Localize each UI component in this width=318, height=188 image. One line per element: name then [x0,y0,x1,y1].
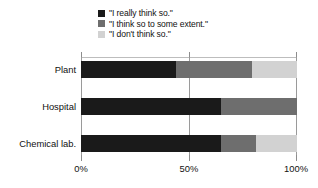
x-tick-label-50: 50% [180,163,199,174]
legend-label: "I really think so." [109,9,173,18]
bar-segment-dont-think-so [256,135,297,152]
bar-segment-think-so-some-extent [221,98,297,115]
category-label-chemical-lab: Chemical lab. [0,135,76,152]
legend-label: "I don't think so." [109,30,171,39]
bar-segment-really-think-so [81,61,176,78]
bar-segment-dont-think-so [252,61,297,78]
bar-segment-really-think-so [81,135,221,152]
chart-legend: "I really think so." "I think so to some… [98,9,208,39]
tick-mark-bottom-100 [296,155,297,161]
category-label-hospital: Hospital [0,98,76,115]
x-tick-label-0: 0% [74,163,88,174]
legend-item-really-think-so: "I really think so." [98,9,208,18]
legend-swatch-icon [98,10,105,17]
bar-row-plant [81,61,297,78]
plot-area [81,57,297,155]
tick-mark-bottom-50 [189,155,190,161]
category-axis-labels: Plant Hospital Chemical lab. [0,57,76,155]
bar-row-hospital [81,98,297,115]
legend-item-think-so-some-extent: "I think so to some extent." [98,20,208,29]
bar-segment-really-think-so [81,98,221,115]
bar-row-chemical-lab [81,135,297,152]
tick-mark-bottom-0 [81,155,82,161]
category-label-plant: Plant [0,61,76,78]
legend-label: "I think so to some extent." [109,20,208,29]
stacked-bar-chart: "I really think so." "I think so to some… [0,0,318,188]
x-tick-label-100: 100% [284,163,308,174]
bar-segment-think-so-some-extent [176,61,252,78]
legend-swatch-icon [98,31,105,38]
legend-swatch-icon [98,20,105,27]
legend-item-dont-think-so: "I don't think so." [98,30,208,39]
bar-segment-think-so-some-extent [221,135,256,152]
bar-series-container [81,57,297,155]
